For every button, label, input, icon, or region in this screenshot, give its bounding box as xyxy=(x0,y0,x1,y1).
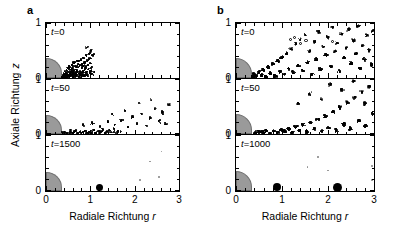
scatter-point xyxy=(371,179,372,180)
time-value: =1000 xyxy=(244,138,271,149)
y-tick xyxy=(46,45,49,46)
scatter-point xyxy=(111,114,112,115)
scatter-point xyxy=(312,73,314,75)
time-value: =50 xyxy=(54,82,70,93)
x-axis-title: Radiale Richtungr xyxy=(45,210,180,222)
scatter-point xyxy=(311,122,313,124)
x-tick xyxy=(170,23,171,26)
plot-group-b: t=0t=50t=1000 xyxy=(235,22,375,192)
scatter-point xyxy=(96,184,103,191)
x-tick xyxy=(319,188,320,191)
y-tick xyxy=(46,101,49,102)
scatter-point xyxy=(356,26,358,28)
y-tick-label: 1 xyxy=(217,75,231,85)
y-tick xyxy=(46,111,49,112)
x-tick xyxy=(273,23,274,26)
x-tick xyxy=(319,132,320,135)
y-tick xyxy=(370,23,375,24)
scatter-point xyxy=(314,74,316,76)
x-tick xyxy=(81,188,82,191)
time-annotation: t=1000 xyxy=(241,138,270,149)
scatter-point xyxy=(93,129,95,131)
x-tick xyxy=(245,132,246,135)
x-tick-label: 0 xyxy=(228,195,244,205)
scatter-point xyxy=(70,74,71,75)
scatter-point xyxy=(259,131,261,133)
scatter-point xyxy=(88,59,89,60)
scatter-point xyxy=(150,99,151,100)
x-axis-title: Radiale Richtungr xyxy=(235,210,375,222)
x-tick xyxy=(264,23,265,26)
scatter-point xyxy=(121,131,122,132)
y-tick xyxy=(46,157,49,158)
y-tick-label: 1 xyxy=(27,75,41,85)
x-tick xyxy=(117,188,118,191)
scatter-point xyxy=(304,125,305,126)
obstacle-disc xyxy=(46,115,62,134)
x-tick xyxy=(245,188,246,191)
scatter-point xyxy=(140,103,141,104)
x-tick-label: 2 xyxy=(320,195,336,205)
obstacle-disc xyxy=(46,172,62,191)
x-tick xyxy=(55,132,56,135)
y-tick-label: 1 xyxy=(217,131,231,141)
y-tick xyxy=(236,146,239,147)
y-tick xyxy=(46,190,51,191)
scatter-point xyxy=(307,166,308,167)
x-tick xyxy=(319,23,320,26)
scatter-point xyxy=(270,74,271,75)
y-tick xyxy=(177,45,180,46)
scatter-point xyxy=(93,123,95,125)
y-tick xyxy=(177,168,180,169)
y-tick xyxy=(46,56,49,57)
scatter-point xyxy=(298,103,300,105)
x-tick xyxy=(291,188,292,191)
scatter-point xyxy=(296,103,298,105)
x-tick xyxy=(144,23,145,26)
x-tick xyxy=(135,23,136,28)
panel-letter-a: a xyxy=(27,5,33,16)
x-tick xyxy=(337,23,338,26)
x-tick xyxy=(328,186,329,191)
x-tick xyxy=(152,75,153,78)
scatter-point xyxy=(321,69,322,70)
scatter-point xyxy=(350,63,352,65)
x-tick xyxy=(374,73,375,78)
scatter-point xyxy=(322,47,323,48)
scatter-point xyxy=(332,110,333,111)
x-tick xyxy=(282,186,283,191)
x-tick xyxy=(55,75,56,78)
x-tick xyxy=(337,132,338,135)
scatter-point xyxy=(110,130,111,131)
x-tick xyxy=(328,73,329,78)
scatter-point xyxy=(371,63,373,65)
x-tick xyxy=(126,75,127,78)
y-axis-title: Axiale Richtungz xyxy=(9,25,21,185)
scatter-point xyxy=(94,71,96,73)
x-tick xyxy=(179,186,180,191)
scatter-point xyxy=(149,161,150,162)
subplot-a-t0: t=0 xyxy=(45,22,180,79)
y-tick xyxy=(177,179,180,180)
y-tick xyxy=(236,101,239,102)
scatter-point xyxy=(299,39,301,41)
y-tick xyxy=(175,133,180,134)
scatter-point xyxy=(312,122,313,123)
scatter-point xyxy=(84,72,85,73)
scatter-point xyxy=(317,156,318,157)
x-tick xyxy=(179,130,180,135)
scatter-point xyxy=(70,131,71,132)
y-tick xyxy=(177,34,180,35)
y-tick xyxy=(236,122,239,123)
scatter-point xyxy=(103,128,104,129)
scatter-point xyxy=(84,62,86,64)
x-tick xyxy=(108,188,109,191)
scatter-point xyxy=(364,126,366,128)
scatter-point xyxy=(318,118,319,119)
time-value: =0 xyxy=(54,26,65,37)
scatter-point xyxy=(308,62,309,63)
scatter-point xyxy=(118,130,119,131)
scatter-point xyxy=(164,123,166,125)
scatter-point xyxy=(283,74,285,76)
obstacle-disc xyxy=(46,58,62,77)
